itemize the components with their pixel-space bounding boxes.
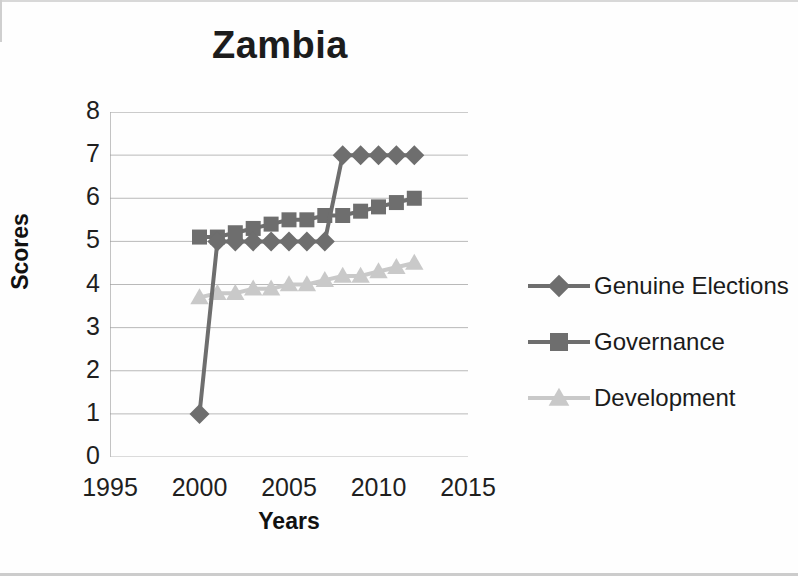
diamond-marker-icon [279, 231, 299, 251]
square-marker-icon [371, 199, 386, 214]
legend-label: Genuine Elections [590, 272, 789, 300]
chart-figure: Zambia Scores Years 876543210 1995200020… [0, 0, 798, 576]
x-tick-label: 2015 [423, 473, 513, 502]
y-tick-label: 4 [66, 269, 100, 298]
x-tick-label: 2000 [155, 473, 245, 502]
square-marker-icon [282, 212, 297, 227]
square-marker-icon [389, 195, 404, 210]
x-tick-label: 2010 [334, 473, 424, 502]
diamond-marker-icon [261, 231, 281, 251]
diamond-marker-icon [315, 231, 335, 251]
square-marker-icon [264, 217, 279, 232]
legend-item-2[interactable]: Development [528, 370, 788, 426]
diamond-marker-icon [369, 145, 389, 165]
square-marker-icon [299, 212, 314, 227]
plot-area [110, 112, 468, 457]
y-tick-label: 5 [66, 225, 100, 254]
x-tick-label: 1995 [65, 473, 155, 502]
chart-legend: Genuine ElectionsGovernanceDevelopment [528, 258, 788, 426]
square-marker-icon [528, 329, 590, 355]
scan-edge-top [0, 0, 798, 2]
triangle-marker-icon [405, 254, 423, 270]
legend-item-0[interactable]: Genuine Elections [528, 258, 788, 314]
y-tick-label: 2 [66, 355, 100, 384]
chart-title: Zambia [0, 24, 560, 67]
square-marker-icon [335, 208, 350, 223]
diamond-marker-icon [333, 145, 353, 165]
x-tick-label: 2005 [244, 473, 334, 502]
diamond-marker-icon [190, 404, 210, 424]
diamond-marker-icon [297, 231, 317, 251]
plot-svg [110, 112, 468, 457]
square-marker-icon [192, 230, 207, 245]
y-tick-label: 6 [66, 182, 100, 211]
y-tick-label: 7 [66, 139, 100, 168]
diamond-marker-icon [404, 145, 424, 165]
legend-item-1[interactable]: Governance [528, 314, 788, 370]
y-tick-label: 8 [66, 96, 100, 125]
y-tick-label: 1 [66, 398, 100, 427]
legend-label: Governance [590, 328, 725, 356]
y-tick-label: 0 [66, 441, 100, 470]
diamond-marker-icon [386, 145, 406, 165]
square-marker-icon [407, 191, 422, 206]
diamond-marker-icon [548, 275, 571, 298]
legend-label: Development [590, 384, 735, 412]
series-triangle [190, 254, 423, 304]
y-axis-title: Scores [7, 213, 34, 290]
y-tick-label: 3 [66, 312, 100, 341]
x-axis-title: Years [110, 508, 468, 535]
triangle-marker-icon [528, 385, 590, 411]
diamond-marker-icon [528, 273, 590, 299]
square-marker-icon [550, 333, 568, 351]
square-marker-icon [353, 204, 368, 219]
diamond-marker-icon [351, 145, 371, 165]
